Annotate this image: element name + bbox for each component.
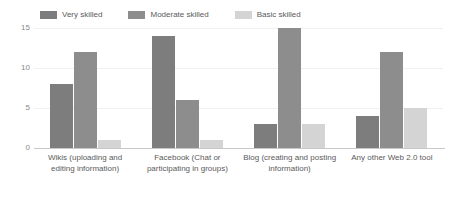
chart-legend: Very skilled Moderate skilled Basic skil…	[40, 8, 301, 22]
bar	[50, 84, 73, 148]
legend-label-very-skilled: Very skilled	[62, 10, 102, 20]
y-axis-tick-label: 10	[2, 64, 30, 72]
bar	[356, 116, 379, 148]
y-axis-tick-label: 15	[2, 24, 30, 32]
legend-swatch-very-skilled	[40, 11, 57, 19]
y-axis-tick-label: 5	[2, 104, 30, 112]
bar	[176, 100, 199, 148]
bar	[380, 52, 403, 148]
bar-group	[34, 28, 136, 148]
bar-group	[239, 28, 341, 148]
legend-swatch-moderate-skilled	[128, 11, 145, 19]
bar-group	[341, 28, 443, 148]
x-axis-category-label: Any other Web 2.0 tool	[341, 152, 443, 174]
bar	[278, 28, 301, 148]
bar	[74, 52, 97, 148]
legend-label-basic-skilled: Basic skilled	[257, 10, 301, 20]
x-axis-line	[34, 148, 445, 149]
bar	[404, 108, 427, 148]
x-axis-category-label: Wikis (uploading and editing information…	[34, 152, 136, 174]
bar	[302, 124, 325, 148]
legend-item-basic-skilled: Basic skilled	[235, 10, 301, 20]
bar-chart: Very skilled Moderate skilled Basic skil…	[0, 0, 451, 200]
bar	[98, 140, 121, 148]
bar-groups	[34, 28, 443, 148]
legend-item-very-skilled: Very skilled	[40, 10, 102, 20]
bar	[152, 36, 175, 148]
bar	[254, 124, 277, 148]
legend-item-moderate-skilled: Moderate skilled	[128, 10, 208, 20]
legend-label-moderate-skilled: Moderate skilled	[150, 10, 208, 20]
x-axis: Wikis (uploading and editing information…	[34, 152, 443, 174]
y-axis: 051015	[0, 28, 30, 148]
x-axis-category-label: Blog (creating and posting information)	[239, 152, 341, 174]
bar-group	[136, 28, 238, 148]
legend-swatch-basic-skilled	[235, 11, 252, 19]
x-axis-category-label: Facebook (Chat or participating in group…	[136, 152, 238, 174]
y-axis-tick-label: 0	[2, 144, 30, 152]
bar	[200, 140, 223, 148]
